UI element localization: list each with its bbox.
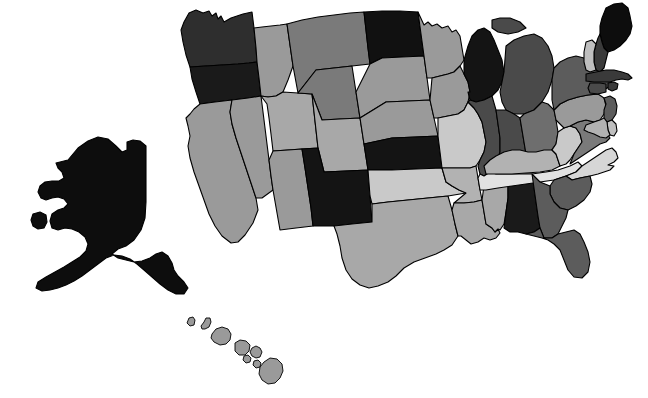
map-canvas xyxy=(0,0,648,398)
state-kansas[interactable] xyxy=(364,136,442,170)
state-washington[interactable] xyxy=(181,10,257,67)
state-vermont[interactable] xyxy=(584,40,596,72)
usa-choropleth-map xyxy=(0,0,648,398)
state-connecticut[interactable] xyxy=(588,83,606,94)
state-rhode-island[interactable] xyxy=(608,82,618,91)
